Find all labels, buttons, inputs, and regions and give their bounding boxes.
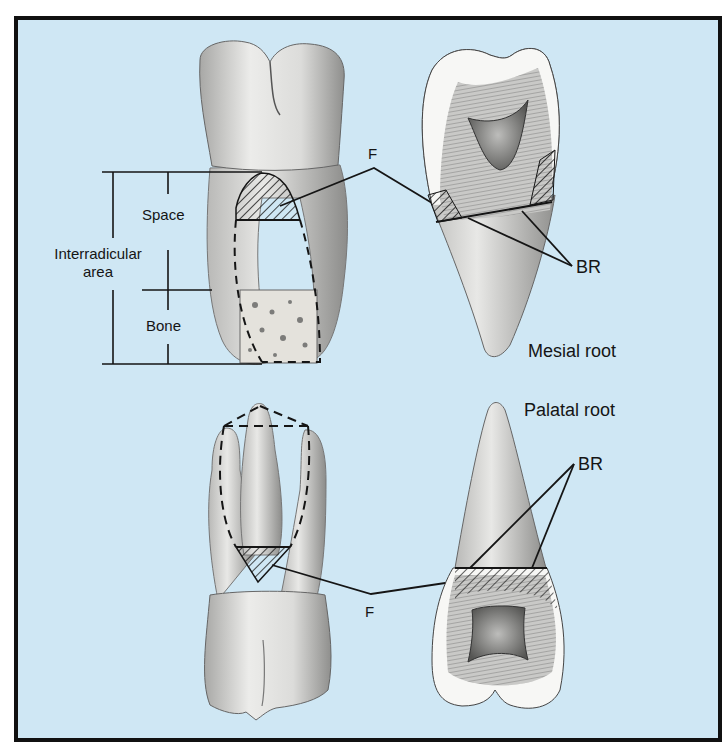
label-br-bottom: BR <box>578 455 603 473</box>
label-interradicular-line2: area <box>44 264 152 279</box>
label-br-top: BR <box>576 258 601 276</box>
label-f-bottom: F <box>365 604 374 619</box>
label-mesial-root: Mesial root <box>528 342 616 360</box>
label-palatal-root: Palatal root <box>524 401 615 419</box>
label-bone: Bone <box>146 318 181 333</box>
label-space: Space <box>142 207 185 222</box>
mesial-root-section <box>422 48 559 356</box>
label-f-top: F <box>368 146 377 161</box>
label-interradicular: Interradicular area <box>44 246 152 279</box>
molar-mesial-view <box>200 41 348 364</box>
dental-illustration <box>0 0 726 752</box>
palatal-root-section <box>432 403 564 709</box>
label-interradicular-line1: Interradicular <box>44 246 152 261</box>
molar-palatal-view <box>205 404 331 720</box>
